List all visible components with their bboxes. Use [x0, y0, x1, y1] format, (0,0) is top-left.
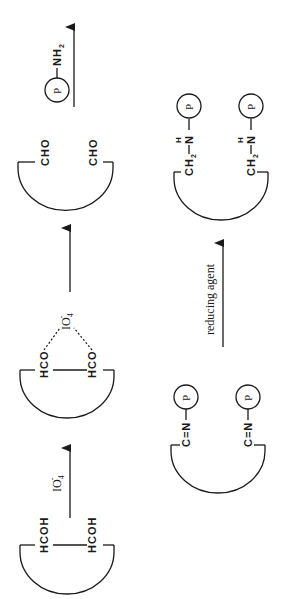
- molecule-backbone-arc: [174, 172, 268, 220]
- reduced-amine-structure: CH2 CH2 N N H H P P: [174, 94, 268, 220]
- arrow-protein-coupling-step3: P NH2: [45, 27, 74, 107]
- io4-reagent-label: IO4-: [48, 475, 66, 492]
- protein-label-left: P: [183, 104, 195, 110]
- h-right-label: H: [236, 137, 245, 143]
- cn-right-label: C=N: [242, 422, 254, 447]
- periodate-complex-structure: HCO HCO IO4-: [20, 313, 114, 418]
- cho-right-label: CHO: [87, 139, 99, 166]
- n-right-label: N: [245, 135, 257, 144]
- dashed-bond-left: [44, 328, 60, 350]
- schiff-base-structure: C=N C=N P P: [171, 385, 265, 493]
- cho-left-label: CHO: [39, 139, 51, 166]
- arrow-reduction-step4: reducing agent: [203, 243, 223, 347]
- ch2-left-label: CH2: [183, 153, 197, 176]
- dashed-bond-right: [74, 328, 92, 350]
- hcoh-left-label: HCOH: [38, 517, 50, 553]
- molecule-backbone-arc: [20, 370, 114, 418]
- io4-complex-label: IO4-: [57, 313, 75, 330]
- hcoh-right-label: HCOH: [86, 517, 98, 553]
- protein-label-right: P: [245, 104, 257, 110]
- ch2-right-label: CH2: [245, 153, 259, 176]
- arrow-periodate-step1: IO4-: [48, 448, 70, 518]
- h-left-label: H: [174, 137, 183, 143]
- molecule-backbone-arc: [20, 545, 114, 594]
- reducing-agent-label: reducing agent: [203, 263, 217, 335]
- nh2-label: NH2: [51, 43, 65, 66]
- protein-label: P: [51, 88, 63, 94]
- molecule-backbone-arc: [18, 162, 113, 210]
- hco-right-label: HCO: [86, 351, 98, 378]
- dialdehyde-structure: CHO CHO: [18, 139, 113, 211]
- cn-left-label: C=N: [180, 422, 192, 447]
- protein-label-right: P: [242, 395, 254, 401]
- hco-left-label: HCO: [38, 351, 50, 378]
- reaction-diagram: HCOH HCOH IO4- HCO HCO IO4- CHO CHO P NH…: [0, 0, 290, 599]
- molecule-backbone-arc: [171, 445, 265, 493]
- diol-structure: HCOH HCOH: [20, 517, 114, 594]
- reaction-scheme: HCOH HCOH IO4- HCO HCO IO4- CHO CHO P NH…: [0, 0, 290, 599]
- protein-label-left: P: [180, 395, 192, 401]
- n-left-label: N: [183, 135, 195, 144]
